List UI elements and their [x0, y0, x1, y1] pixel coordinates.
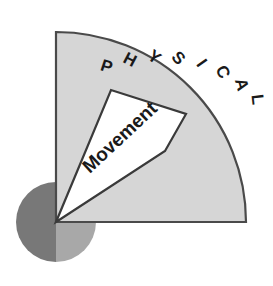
origin-circle-left-half	[16, 182, 56, 262]
physical-letter-6: A	[231, 76, 253, 93]
physical-letter-3: S	[168, 47, 190, 68]
physical-letter-7: L	[248, 93, 268, 105]
physical-letter-4: I	[192, 56, 210, 71]
diagram-canvas: P H Y S I C A L Movement	[0, 0, 273, 286]
sector-diagram-svg: P H Y S I C A L Movement	[0, 0, 273, 286]
physical-letter-5: C	[212, 62, 234, 81]
